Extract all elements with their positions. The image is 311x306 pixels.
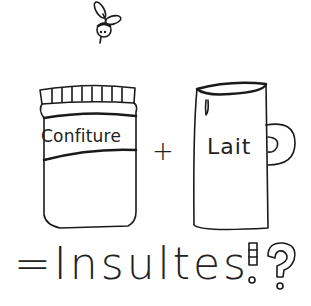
bee-icon [92, 0, 122, 43]
question-icon [268, 243, 295, 289]
mug-label: Lait [207, 134, 251, 159]
jar-label: Confiture [41, 126, 121, 146]
plus-sign: + [152, 136, 174, 166]
exclamation-icon [249, 243, 257, 283]
jam-jar-icon [40, 85, 137, 228]
result-text: =Insultes [14, 238, 249, 289]
